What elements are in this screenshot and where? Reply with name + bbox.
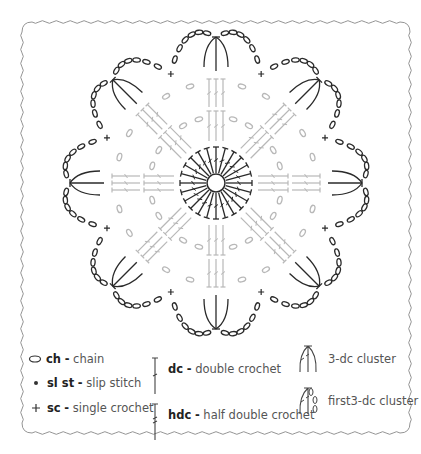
legend-label: first3-dc cluster — [328, 394, 418, 408]
legend-item-double-crochet: dc - double crochet — [150, 343, 281, 395]
legend-label: chain — [73, 352, 104, 366]
legend-item-first-3dc-cluster: first3-dc cluster — [296, 386, 418, 416]
legend-abbr: sl st — [47, 376, 74, 390]
stitch-legend: ch - chain sl st - slip stitch sc - sing… — [0, 0, 421, 454]
chain-icon — [28, 354, 42, 364]
legend-item-half-double-crochet: hdc - half double crochet — [150, 389, 314, 441]
legend-item-3dc-cluster: 3-dc cluster — [296, 344, 396, 374]
3dc-cluster-icon — [296, 344, 322, 374]
legend-abbr: hdc — [168, 408, 191, 422]
legend-item-chain: ch - chain — [28, 352, 104, 366]
legend-abbr: ch — [46, 352, 61, 366]
legend-label: double crochet — [195, 362, 281, 376]
legend-item-single-crochet: sc - single crochet — [31, 401, 154, 415]
first-3dc-cluster-icon — [296, 386, 322, 416]
legend-abbr: dc — [168, 362, 183, 376]
single-crochet-icon — [31, 403, 41, 413]
legend-label: 3-dc cluster — [328, 352, 396, 366]
legend-abbr: sc — [47, 401, 61, 415]
legend-label: slip stitch — [86, 376, 141, 390]
slip-stitch-icon — [32, 378, 42, 388]
legend-item-slip-stitch: sl st - slip stitch — [32, 376, 141, 390]
legend-label: single crochet — [73, 401, 154, 415]
half-double-crochet-icon — [150, 403, 160, 441]
